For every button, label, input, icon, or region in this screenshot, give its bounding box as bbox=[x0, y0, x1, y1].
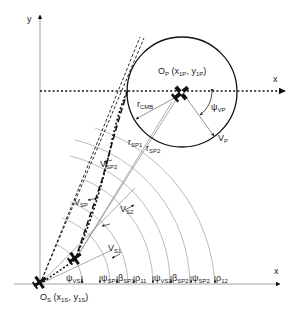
v-s1-label: VS1 bbox=[108, 243, 122, 254]
trajectory-lines bbox=[40, 37, 144, 284]
r-cmb-label: rCMB bbox=[137, 99, 153, 110]
psi-vp-label: ψVP bbox=[211, 102, 225, 113]
pursuit-geometry-diagram: y x x bbox=[0, 0, 302, 321]
origin-s-label: OS (x1S, y1S) bbox=[40, 292, 88, 303]
angle-label-psi-vs1: ψVS1 bbox=[66, 273, 84, 284]
x-axis-top-label: x bbox=[273, 74, 278, 84]
v-sp-label: VSP bbox=[74, 197, 88, 208]
angle-label-rho-12: ρ12 bbox=[216, 273, 228, 284]
y-axis-label: y bbox=[27, 14, 32, 24]
angle-label-beta-sp1: βSP1 bbox=[118, 273, 135, 284]
v-p-vector bbox=[182, 92, 214, 136]
radial-lines bbox=[40, 100, 176, 284]
angle-label-beta-sp2: βSP2 bbox=[172, 273, 189, 284]
v-s2-label: VS2 bbox=[120, 204, 134, 215]
origin-p-label: OP (x1P, y1P) bbox=[158, 66, 206, 77]
r-sp1-label: rSP1 bbox=[128, 137, 143, 148]
v-p-label: VP bbox=[218, 133, 228, 144]
angle-labels: ψVS1 ψSP1 βSP1 ρ11 ψVS2 βSP2 ψSP2 ρ12 bbox=[66, 273, 228, 284]
r-sp2-label: rSP2 bbox=[146, 143, 161, 154]
pursuer-aircraft bbox=[65, 248, 84, 267]
target-aircraft bbox=[169, 81, 193, 105]
angle-label-psi-sp1: ψSP1 bbox=[101, 273, 119, 284]
x-axis-bottom-label: x bbox=[274, 266, 279, 276]
angle-label-psi-sp2: ψSP2 bbox=[192, 273, 210, 284]
angle-label-rho-11: ρ11 bbox=[135, 273, 147, 284]
